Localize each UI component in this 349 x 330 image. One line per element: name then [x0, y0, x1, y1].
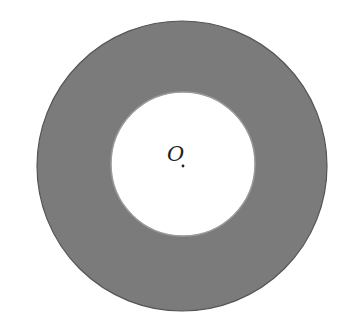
center-label: O	[167, 144, 184, 165]
